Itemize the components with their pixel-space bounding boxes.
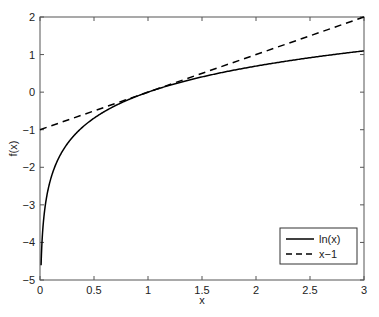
x-tick-label: 1 bbox=[145, 284, 151, 296]
legend-label-ln: ln(x) bbox=[319, 233, 340, 245]
chart-background bbox=[0, 0, 379, 317]
line-chart: 00.511.522.53−5−4−3−2−1012 x f(x) ln(x) … bbox=[0, 0, 379, 317]
y-tick-label: −4 bbox=[22, 236, 35, 248]
y-tick-label: 2 bbox=[29, 11, 35, 23]
y-tick-label: −1 bbox=[22, 124, 35, 136]
y-tick-label: 0 bbox=[29, 86, 35, 98]
y-tick-label: −2 bbox=[22, 161, 35, 173]
legend-label-x-minus-1: x−1 bbox=[319, 248, 337, 260]
x-tick-label: 2 bbox=[253, 284, 259, 296]
y-axis-label: f(x) bbox=[7, 141, 19, 157]
x-tick-label: 3 bbox=[361, 284, 367, 296]
x-tick-label: 2.5 bbox=[302, 284, 317, 296]
x-tick-label: 0.5 bbox=[86, 284, 101, 296]
x-tick-label: 0 bbox=[37, 284, 43, 296]
y-tick-label: −3 bbox=[22, 199, 35, 211]
y-tick-label: −5 bbox=[22, 274, 35, 286]
x-axis-label: x bbox=[199, 294, 205, 306]
y-tick-label: 1 bbox=[29, 49, 35, 61]
legend: ln(x) x−1 bbox=[280, 228, 357, 264]
